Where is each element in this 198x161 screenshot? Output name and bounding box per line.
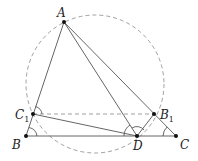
circle: [26, 15, 164, 153]
label-b1: B1: [159, 108, 174, 124]
point-a: [62, 20, 66, 24]
angle-mark-b: [29, 128, 37, 137]
angle-mark-c1: [36, 107, 43, 115]
segment-a-d: [64, 22, 137, 136]
geometry-diagram: A B C D C1 B1: [0, 0, 198, 161]
point-b: [24, 134, 28, 138]
point-c: [174, 134, 178, 138]
angle-mark-c: [163, 127, 167, 136]
segment-d-b1: [137, 114, 154, 136]
point-d: [135, 134, 139, 138]
label-c: C: [180, 138, 189, 152]
label-a: A: [56, 6, 66, 20]
point-b1: [152, 112, 156, 116]
label-b: B: [11, 138, 21, 152]
label-c1: C1: [15, 108, 29, 124]
segment-c1-d: [33, 114, 137, 136]
point-c1: [31, 112, 35, 116]
label-d: D: [132, 139, 143, 153]
